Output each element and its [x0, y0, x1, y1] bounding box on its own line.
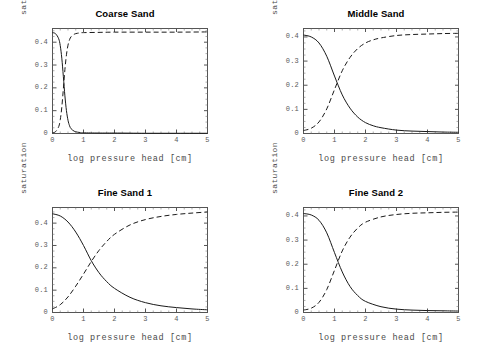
y-tick-label: 0.4 [277, 32, 299, 40]
x-tick-label: 2 [360, 315, 372, 323]
x-tick-label: 5 [453, 136, 465, 144]
plot-svg [52, 28, 208, 134]
tick-marks [53, 29, 208, 134]
plot-svg [303, 207, 459, 313]
panel-title: Coarse Sand [0, 8, 250, 19]
y-tick-label: 0.4 [26, 219, 48, 227]
tick-marks [304, 29, 459, 134]
plot-svg [52, 207, 208, 313]
x-tick-label: 0 [298, 315, 310, 323]
axes-frame [53, 208, 208, 313]
panel-title: Fine Sand 1 [0, 187, 250, 198]
x-tick-label: 1 [329, 315, 341, 323]
x-tick-label: 0 [47, 136, 59, 144]
curve-water-saturation [53, 214, 208, 310]
curve-water-saturation [304, 35, 459, 132]
y-tick-label: 0.2 [277, 81, 299, 89]
curve-water-saturation [53, 33, 208, 134]
x-axis-label: log pressure head [cm] [52, 154, 208, 164]
tick-marks [304, 208, 459, 313]
panel-middle-sand: Middle Sand saturation 00.10.20.30.4 012… [251, 0, 501, 179]
y-tick-label: 0 [26, 308, 48, 316]
plot-area: 00.10.20.30.4 012345 [303, 28, 459, 134]
axes-frame [53, 29, 208, 134]
y-tick-label: 0.3 [26, 241, 48, 249]
tick-marks [53, 208, 208, 313]
panel-fine-sand-1: Fine Sand 1 saturation 00.10.20.30.4 012… [0, 179, 250, 358]
x-tick-label: 2 [109, 136, 121, 144]
curve-water-saturation [304, 214, 459, 312]
y-tick-label: 0.2 [26, 83, 48, 91]
y-tick-label: 0.2 [277, 260, 299, 268]
panel-title: Fine Sand 2 [251, 187, 501, 198]
x-tick-label: 5 [453, 315, 465, 323]
y-tick-label: 0.2 [26, 263, 48, 271]
y-axis-label: saturation [268, 115, 282, 221]
y-axis-label: saturation [17, 115, 31, 221]
y-tick-label: 0.1 [277, 284, 299, 292]
y-tick-label: 0.4 [277, 211, 299, 219]
curve-air-saturation [53, 32, 208, 133]
y-tick-label: 0 [277, 308, 299, 316]
y-tick-label: 0.3 [26, 61, 48, 69]
plot-svg [303, 28, 459, 134]
plot-area: 00.10.20.30.4 012345 [52, 207, 208, 313]
axes-frame [304, 208, 459, 313]
x-tick-label: 3 [140, 315, 152, 323]
x-tick-label: 1 [78, 136, 90, 144]
x-tick-label: 0 [298, 136, 310, 144]
x-axis-label: log pressure head [cm] [303, 154, 459, 164]
x-tick-label: 0 [47, 315, 59, 323]
x-tick-label: 5 [202, 315, 214, 323]
x-tick-label: 4 [171, 315, 183, 323]
x-tick-label: 3 [391, 315, 403, 323]
y-tick-label: 0.4 [26, 38, 48, 46]
axes-frame [304, 29, 459, 134]
plot-area: 00.10.20.30.4 012345 [52, 28, 208, 134]
x-tick-label: 4 [422, 315, 434, 323]
y-tick-label: 0.3 [277, 236, 299, 244]
x-tick-label: 2 [360, 136, 372, 144]
x-tick-label: 3 [140, 136, 152, 144]
x-tick-label: 4 [171, 136, 183, 144]
curve-air-saturation [53, 212, 208, 309]
y-tick-label: 0.1 [26, 106, 48, 114]
x-tick-label: 3 [391, 136, 403, 144]
y-tick-label: 0.3 [277, 57, 299, 65]
plot-area: 00.10.20.30.4 012345 [303, 207, 459, 313]
x-axis-label: log pressure head [cm] [303, 333, 459, 343]
x-tick-label: 4 [422, 136, 434, 144]
y-axis-label: saturation [17, 0, 31, 42]
x-tick-label: 1 [329, 136, 341, 144]
x-tick-label: 2 [109, 315, 121, 323]
y-tick-label: 0.1 [26, 286, 48, 294]
curve-air-saturation [304, 212, 459, 310]
x-tick-label: 5 [202, 136, 214, 144]
panel-fine-sand-2: Fine Sand 2 saturation 00.10.20.30.4 012… [251, 179, 501, 358]
saturation-curves-figure: Coarse Sand saturation 00.10.20.30.4 012… [0, 0, 501, 358]
y-tick-label: 0.1 [277, 105, 299, 113]
x-axis-label: log pressure head [cm] [52, 333, 208, 343]
x-tick-label: 1 [78, 315, 90, 323]
curve-air-saturation [304, 33, 459, 130]
panel-title: Middle Sand [251, 8, 501, 19]
panel-coarse-sand: Coarse Sand saturation 00.10.20.30.4 012… [0, 0, 250, 179]
